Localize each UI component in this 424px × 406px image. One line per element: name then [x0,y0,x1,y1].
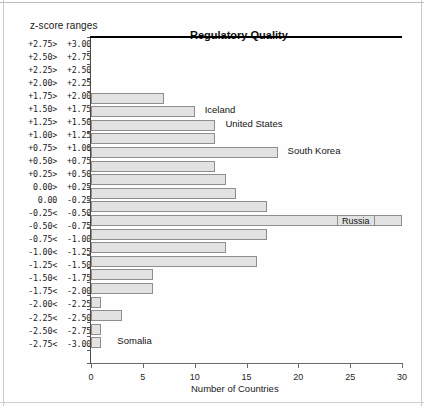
y-axis-tick [87,350,91,351]
range-upper-bound: +1.25 [57,130,91,140]
y-axis-title: z-score ranges [30,20,98,31]
country-annotation: Iceland [205,104,236,115]
range-upper-bound: -0.75 [57,221,91,231]
range-lower-bound: -1.25< [20,260,57,270]
country-annotation: Russia [337,215,375,226]
x-axis-tick-label: 0 [88,372,93,382]
range-upper-bound: -1.75 [57,273,91,283]
range-upper-bound: +1.00 [57,143,91,153]
y-axis-tick-label: -1.25<-1.50 [18,259,91,272]
y-axis-tick-label: +2.75>+3.00 [18,37,91,50]
bar [91,120,215,131]
range-lower-bound: +0.75> [20,143,57,153]
x-axis-title: Number of Countries [191,383,279,394]
y-axis-tick-label: 0.00>+0.25 [18,181,91,194]
range-lower-bound: +0.25> [20,169,57,179]
range-upper-bound: +1.75 [57,104,91,114]
range-upper-bound: -2.25 [57,299,91,309]
bar [91,133,215,144]
bar [91,297,101,308]
range-upper-bound: -0.25 [57,195,91,205]
range-lower-bound: -0.75< [20,234,57,244]
range-upper-bound: -3.00 [57,339,91,349]
zero-reference-line [90,36,402,38]
bar [91,201,267,212]
range-lower-bound: +2.50> [20,52,57,62]
bar [91,188,236,199]
y-axis-tick-label: +0.25>+0.50 [18,167,91,180]
range-upper-bound: -1.50 [57,260,91,270]
x-axis-tick [143,363,144,368]
range-upper-bound: +2.25 [57,78,91,88]
range-lower-bound: +1.50> [20,104,57,114]
y-axis-tick-label: +1.75>+2.00 [18,89,91,102]
y-axis-tick-label: -2.75<-3.00 [18,337,91,350]
range-lower-bound: +1.00> [20,130,57,140]
range-upper-bound: -0.50 [57,208,91,218]
country-annotation: Somalia [117,335,151,346]
page-border-bottom [0,402,424,403]
range-upper-bound: +1.50 [57,117,91,127]
range-upper-bound: +2.50 [57,65,91,75]
range-lower-bound: -0.50< [20,221,57,231]
bar [91,147,278,158]
range-upper-bound: +2.75 [57,52,91,62]
range-upper-bound: -2.50 [57,313,91,323]
x-axis-tick-label: 10 [190,372,200,382]
range-upper-bound: -2.00 [57,286,91,296]
bar [91,310,122,321]
y-axis-tick-label: +1.50>+1.75 [18,102,91,115]
range-upper-bound: -2.75 [57,326,91,336]
x-axis-tick-label: 5 [140,372,145,382]
y-axis-tick [87,64,91,65]
y-axis-tick-label: +2.25>+2.50 [18,63,91,76]
y-axis-tick-label: -1.50<-1.75 [18,272,91,285]
y-axis-tick-label: +1.25>+1.50 [18,115,91,128]
range-lower-bound: -1.50< [20,273,57,283]
y-axis-tick [87,78,91,79]
range-lower-bound: -2.00< [20,299,57,309]
plot-area: 051015202530IcelandUnited StatesSouth Ko… [91,37,402,363]
y-axis-tick-label: -2.50<-2.75 [18,324,91,337]
y-axis-tick-label: +0.50>+0.75 [18,154,91,167]
y-axis-tick-label: -2.00<-2.25 [18,298,91,311]
range-lower-bound: +0.50> [20,156,57,166]
x-axis-tick-label: 30 [397,372,407,382]
bar [91,161,215,172]
range-upper-bound: -1.00 [57,234,91,244]
x-axis-tick [298,363,299,368]
range-upper-bound: +0.50 [57,169,91,179]
y-axis-tick [87,51,91,52]
range-upper-bound: +2.00 [57,91,91,101]
range-lower-bound: 0.00 [20,195,57,205]
bar [91,229,267,240]
range-lower-bound: +2.25> [20,65,57,75]
y-axis-tick-label: -2.25<-2.50 [18,311,91,324]
range-lower-bound: +2.00> [20,78,57,88]
x-axis-tick-label: 15 [241,372,251,382]
bar [91,242,226,253]
y-axis-tick-label: -0.25<-0.50 [18,207,91,220]
x-axis-tick [195,363,196,368]
bar [91,93,164,104]
range-upper-bound: +0.25 [57,182,91,192]
bar [91,337,101,348]
bar [91,174,226,185]
range-lower-bound: -2.25< [20,313,57,323]
y-axis-tick-label: -1.00<-1.25 [18,246,91,259]
y-axis-tick-label: +1.00>+1.25 [18,128,91,141]
chart-container: z-score ranges Regulatory Quality +2.75>… [0,0,424,406]
range-lower-bound: +2.75> [20,39,57,49]
range-lower-bound: 0.00> [20,182,57,192]
x-axis-tick-label: 25 [345,372,355,382]
bar [91,324,101,335]
bar [91,283,153,294]
y-axis-tick-labels: +2.75>+3.00+2.50>+2.75+2.25>+2.50+2.00>+… [18,37,91,350]
page-border-top [0,2,424,3]
x-axis-tick [91,363,92,368]
range-lower-bound: -1.75< [20,286,57,296]
x-axis-tick-label: 20 [293,372,303,382]
bar [91,256,257,267]
x-axis-tick [402,363,403,368]
range-lower-bound: -0.25< [20,208,57,218]
